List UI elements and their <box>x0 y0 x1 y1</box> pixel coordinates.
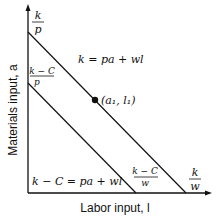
x-axis-arrow-icon <box>205 191 212 196</box>
diagram-canvas: (a₁, l₁) k p k − C p k = pa + wl k − C =… <box>0 0 217 218</box>
point-a1-l1 <box>92 97 98 103</box>
y-axis-label: Materials input, a <box>6 64 20 156</box>
y-tick-outer-num: k <box>35 9 42 22</box>
x-tick-inner-den: w <box>141 178 149 188</box>
outer-line-label: k = pa + wl <box>78 53 144 66</box>
x-tick-outer-num: k <box>192 166 199 179</box>
y-tick-outer-den: p <box>34 23 41 36</box>
x-tick-outer-den: w <box>190 180 200 193</box>
y-tick-inner-num: k − C <box>29 66 55 76</box>
inner-line-label: k − C = pa + wl <box>32 175 123 188</box>
isocost-diagram: (a₁, l₁) k p k − C p k = pa + wl k − C =… <box>0 0 217 218</box>
x-tick-inner-num: k − C <box>132 166 158 176</box>
point-label: (a₁, l₁) <box>101 94 135 107</box>
y-axis-arrow-icon <box>26 4 31 11</box>
y-tick-inner-den: p <box>34 77 40 87</box>
x-axis-label: Labor input, l <box>80 201 149 215</box>
